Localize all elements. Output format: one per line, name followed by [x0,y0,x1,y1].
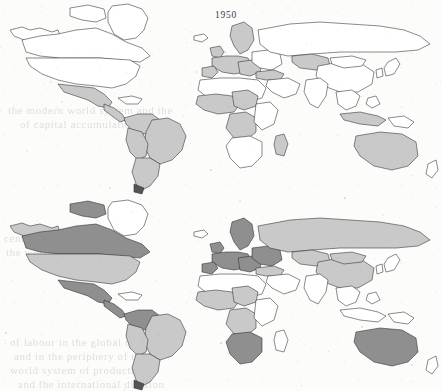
region-india-2010 [304,274,328,304]
region-greenland-1950 [108,4,148,40]
region-philippines-2010 [366,292,380,304]
region-australia-1950 [354,132,418,170]
region-korea-2010 [376,264,383,274]
region-philippines-1950 [366,96,380,108]
region-indonesia-2010 [340,308,386,322]
region-russia-2010 [258,218,430,252]
region-korea-1950 [376,68,383,78]
region-japan-2010 [384,254,400,272]
region-greenland-2010 [108,200,148,236]
world-map-2010 [0,196,442,391]
region-new-guinea-1950 [388,116,414,128]
region-australia-2010 [354,328,418,366]
map-panel-1950: 1950 [0,0,442,196]
region-middle-east-2010 [266,274,300,294]
region-madagascar-2010 [274,330,288,352]
region-southern-africa-1950 [226,136,262,168]
region-brazil-2010 [144,314,186,360]
region-turkey-2010 [256,266,284,276]
scanned-page: the modern world system and theof capita… [0,0,442,391]
region-brazil-1950 [144,118,186,164]
year-label-1950: 1950 [196,10,256,20]
region-india-1950 [304,78,328,108]
region-british-isles-1950 [210,46,224,58]
region-turkey-1950 [256,70,284,80]
world-map-1950 [0,0,442,196]
region-united-states-1950 [26,58,140,88]
region-united-states-2010 [26,254,140,284]
region-iceland-2010 [194,230,208,238]
region-british-isles-2010 [210,242,224,254]
region-scandinavia-1950 [230,22,254,54]
region-japan-1950 [384,58,400,76]
region-east-africa-2010 [254,298,278,326]
region-central-america-1950 [104,104,126,122]
region-east-africa-1950 [254,102,278,130]
region-southeast-asia-1950 [336,90,360,110]
region-arctic-islands-2010 [70,201,106,218]
region-new-zealand-1950 [426,160,438,178]
region-new-zealand-2010 [426,356,438,374]
region-scandinavia-2010 [230,218,254,250]
region-central-africa-1950 [226,112,256,140]
region-arctic-islands-1950 [70,5,106,22]
region-southeast-asia-2010 [336,286,360,306]
region-southern-africa-2010 [226,332,262,364]
region-new-guinea-2010 [388,312,414,324]
region-russia-1950 [258,22,430,56]
region-iceland-1950 [194,34,208,42]
region-madagascar-1950 [274,134,288,156]
region-middle-east-1950 [266,78,300,98]
region-caribbean-2010 [118,292,142,300]
map-panel-2010: 2010 [0,196,442,391]
region-indonesia-1950 [340,112,386,126]
region-central-america-2010 [104,300,126,318]
region-caribbean-1950 [118,96,142,104]
region-central-africa-2010 [226,308,256,336]
